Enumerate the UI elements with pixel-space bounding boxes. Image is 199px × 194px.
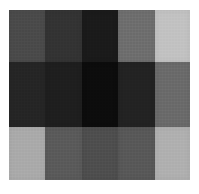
swatch-grid xyxy=(9,10,190,180)
swatch-cell xyxy=(9,127,45,180)
swatch-cell xyxy=(45,62,82,127)
swatch-cell xyxy=(82,127,118,180)
swatch-cell xyxy=(9,10,45,62)
swatch-cell xyxy=(9,62,45,127)
swatch-cell xyxy=(155,10,190,62)
swatch-cell xyxy=(45,127,82,180)
swatch-cell xyxy=(118,127,155,180)
image-canvas xyxy=(0,0,199,194)
swatch-cell xyxy=(82,62,118,127)
swatch-cell xyxy=(118,62,155,127)
swatch-cell xyxy=(82,10,118,62)
swatch-cell xyxy=(118,10,155,62)
swatch-cell xyxy=(45,10,82,62)
swatch-cell xyxy=(155,127,190,180)
swatch-cell xyxy=(155,62,190,127)
